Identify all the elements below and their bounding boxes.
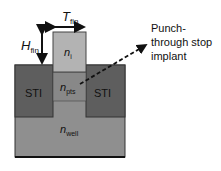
annotation-line-2: through stop — [151, 36, 212, 48]
t-fin-label: Tfin — [62, 9, 78, 26]
sti-left-label: STI — [25, 87, 42, 99]
finfet-cross-section-diagram: Tfin Hfin ni npts STI STI nwell Punch- t… — [0, 0, 221, 171]
annotation-line-3: implant — [151, 50, 186, 62]
annotation-line-1: Punch- — [151, 22, 186, 34]
n-pts-region — [53, 72, 86, 101]
h-fin-label: Hfin — [21, 38, 39, 55]
sti-right-label: STI — [94, 87, 111, 99]
